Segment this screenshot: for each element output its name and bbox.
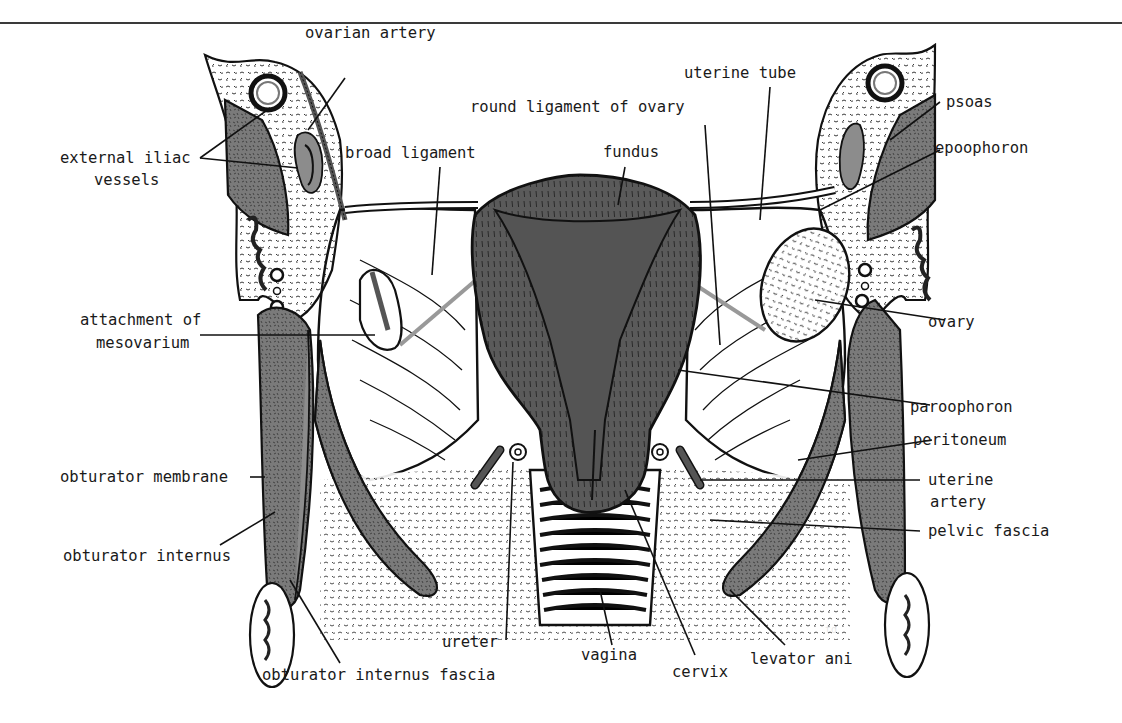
label-external-iliac-1: external iliac: [60, 149, 191, 167]
left-mesovarium: [360, 270, 401, 350]
label-ovarian-artery: ovarian artery: [305, 24, 436, 42]
label-psoas: psoas: [946, 93, 993, 111]
label-epoophoron: epoophoron: [935, 139, 1028, 157]
label-obturator-internus: obturator internus: [63, 547, 231, 565]
label-fundus: fundus: [603, 143, 659, 161]
label-uterine-tube: uterine tube: [684, 64, 796, 82]
label-paroophoron: paroophoron: [910, 398, 1013, 416]
uterus: [472, 175, 700, 513]
label-attachment-2: mesovarium: [96, 334, 189, 352]
label-external-iliac-2: vessels: [94, 171, 159, 189]
label-ureter: ureter: [442, 633, 498, 651]
label-peritoneum: peritoneum: [913, 431, 1006, 449]
label-vagina: vagina: [581, 646, 637, 664]
label-broad-ligament: broad ligament: [345, 144, 476, 162]
label-ovary: ovary: [928, 313, 975, 331]
label-levator-ani: levator ani: [750, 650, 853, 668]
label-obturator-internus-fascia: obturator internus fascia: [262, 666, 495, 684]
label-cervix: cervix: [672, 663, 728, 681]
label-uterine-artery-1: uterine: [928, 471, 993, 489]
label-pelvic-fascia: pelvic fascia: [928, 522, 1049, 540]
label-obturator-membrane: obturator membrane: [60, 468, 228, 486]
label-round-ligament-of-ovary: round ligament of ovary: [470, 98, 685, 116]
label-uterine-artery-2: artery: [930, 493, 986, 511]
label-attachment-1: attachment of: [80, 311, 201, 329]
pelvis-diagram: td: [0, 0, 1122, 723]
